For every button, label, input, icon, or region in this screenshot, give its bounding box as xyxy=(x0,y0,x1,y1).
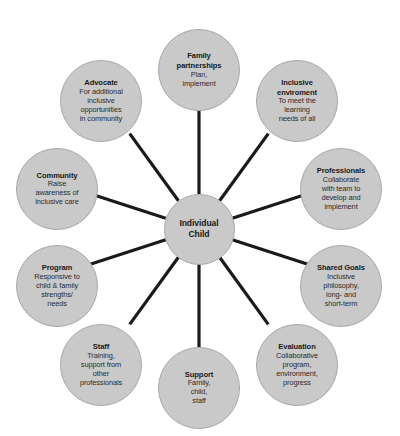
node-desc-line4: implement xyxy=(324,203,357,212)
node-desc-line2: implement xyxy=(182,80,215,89)
spoke-line xyxy=(87,193,166,219)
spoke-line xyxy=(220,134,269,201)
spoke-line xyxy=(130,257,179,324)
node-support: Support Family, child, staff xyxy=(158,347,240,429)
spoke-line xyxy=(232,240,311,265)
node-desc-line3: staff xyxy=(192,397,205,406)
node-program: Program Responsive to child & family str… xyxy=(16,245,98,327)
node-desc-line4: short-term xyxy=(325,300,358,309)
spoke-line xyxy=(130,134,179,201)
radial-diagram: Family partnerships Plan, implement Incl… xyxy=(0,0,400,436)
hub-title: Individual xyxy=(179,218,218,229)
spoke-line xyxy=(220,257,269,324)
hub-title-line2: Child xyxy=(189,229,210,240)
node-shared-goals: Shared Goals Inclusive philosophy, long-… xyxy=(300,245,382,327)
node-desc-line3: needs of all xyxy=(279,115,316,124)
node-desc-line3: inclusive care xyxy=(35,198,78,207)
node-title: Family xyxy=(187,51,210,60)
node-title: Inclusive xyxy=(281,78,313,87)
node-desc-line4: in community xyxy=(80,115,122,124)
node-desc-line4: professionals xyxy=(80,379,122,388)
node-individual-child: Individual Child xyxy=(164,194,235,265)
node-community: Community Raise awareness of inclusive c… xyxy=(16,148,98,230)
node-evaluation: Evaluation Collaborative program, enviro… xyxy=(256,324,338,406)
node-advocate: Advocate For additional inclusive opport… xyxy=(60,60,142,142)
node-inclusive-environment: Inclusive enviroment To meet the learnin… xyxy=(256,60,338,142)
node-family-partnerships: Family partnerships Plan, implement xyxy=(158,29,240,111)
node-staff: Staff Training, support from other profe… xyxy=(60,324,142,406)
node-title-line2: partnerships xyxy=(177,61,222,70)
spoke-line xyxy=(232,193,311,219)
node-professionals: Professionals Collaborate with team to d… xyxy=(300,148,382,230)
node-desc-line4: needs xyxy=(47,300,67,309)
node-desc-line4: progress xyxy=(283,379,311,388)
spoke-line xyxy=(87,240,166,265)
